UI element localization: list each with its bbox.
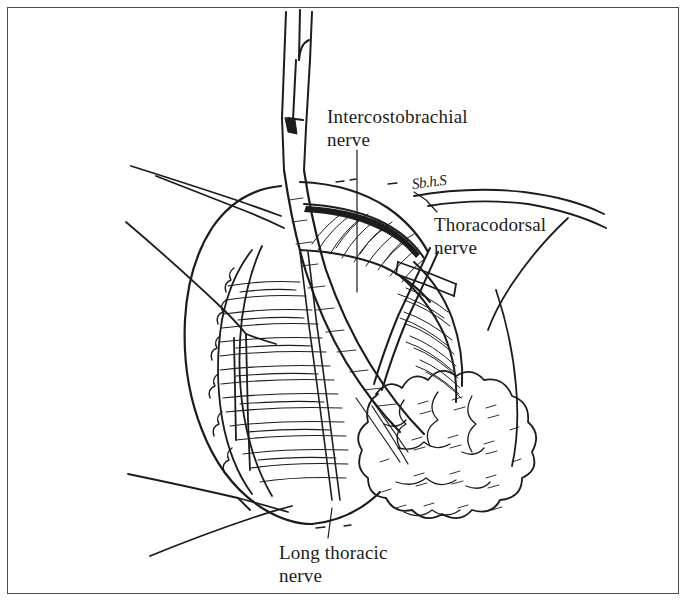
fat-packet-lobules <box>384 392 490 516</box>
label-intercostobrachial-line1: Intercostobrachial <box>327 105 468 128</box>
figure-root: Intercostobrachial nerve Thoracodorsal n… <box>0 0 686 606</box>
label-longthoracic-line1: Long thoracic <box>279 541 388 564</box>
label-thoracodorsal-nerve: Thoracodorsal nerve <box>434 213 546 259</box>
forked-retractor-icon <box>282 10 312 170</box>
label-longthoracic-line2: nerve <box>279 564 388 587</box>
upper-left-skin-flap <box>131 166 284 228</box>
axillary-dissection-illustration <box>0 0 686 606</box>
label-intercostobrachial-nerve: Intercostobrachial nerve <box>327 105 468 151</box>
label-thoracodorsal-line1: Thoracodorsal <box>434 213 546 236</box>
serratus-fiber-hatching <box>220 282 348 483</box>
axillary-fat-lymph-node-packet <box>358 371 536 518</box>
label-thoracodorsal-line2: nerve <box>434 236 546 259</box>
left-retractor-blade <box>126 222 276 470</box>
fat-packet-texture <box>380 397 521 510</box>
leader-longthoracic <box>328 508 332 538</box>
label-long-thoracic-nerve: Long thoracic nerve <box>279 541 388 587</box>
thoracodorsal-nerve-cord <box>374 248 438 390</box>
label-intercostobrachial-line2: nerve <box>327 128 468 151</box>
